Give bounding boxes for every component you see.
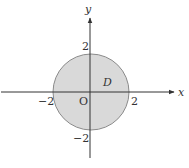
x-axis-label: x xyxy=(178,86,185,99)
tick-label-y-neg: −2 xyxy=(73,132,89,145)
origin-label: O xyxy=(79,95,88,108)
tick-label-x-pos: 2 xyxy=(131,95,138,108)
tick-label-y-pos: 2 xyxy=(82,40,89,53)
coordinate-diagram: x y 2 −2 −2 2 O D xyxy=(0,0,189,168)
tick-label-x-neg: −2 xyxy=(38,95,54,108)
y-axis-label: y xyxy=(84,3,92,16)
region-label: D xyxy=(102,76,112,89)
